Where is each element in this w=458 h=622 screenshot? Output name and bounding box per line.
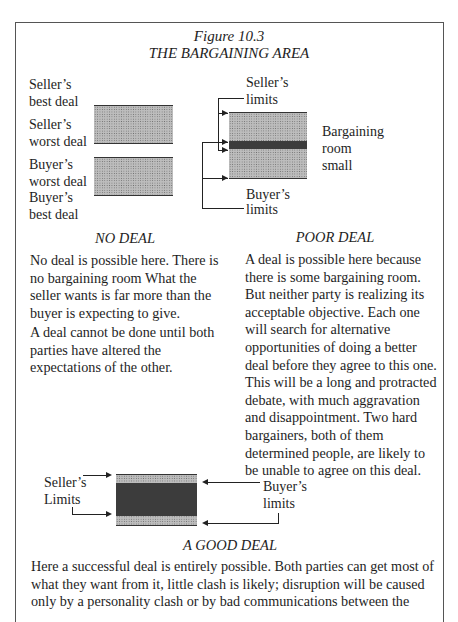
label-seller-worst-1: Seller’s: [29, 116, 72, 133]
arrow-right-icon: [222, 175, 228, 181]
label-buyer-worst-2: worst deal: [29, 173, 87, 190]
seller-range-bar: [94, 105, 173, 144]
buyer-bottom-arrow-line: [206, 523, 279, 524]
figure-number: Figure 10.3: [0, 27, 458, 45]
buyer-bracket-bottom: [202, 208, 244, 209]
buyer-top-arrow-line: [206, 482, 260, 483]
arrow-right-icon: [222, 147, 228, 153]
label-small: small: [322, 157, 352, 174]
seller-bracket-top: [218, 98, 244, 99]
label-good-seller-limits-1: Seller’s: [44, 474, 87, 491]
large-bargaining-room: [116, 483, 197, 516]
label-buyer-worst-1: Buyer’s: [29, 156, 73, 173]
arrow-right-icon: [222, 139, 228, 145]
buyer-bracket-vertical: [202, 142, 203, 208]
label-seller-best-2: best deal: [29, 93, 78, 110]
label-buyer-limits-2: limits: [246, 201, 278, 218]
label-good-buyer-limits-2: limits: [263, 495, 295, 512]
caption-good-deal: A GOOD DEAL: [100, 537, 360, 554]
arrow-right-icon: [106, 511, 112, 517]
good-deal-paragraph: Here a successful deal is entirely possi…: [31, 558, 436, 611]
buyer-bottom-connector: [278, 513, 279, 523]
seller-bottom-connector: [72, 507, 73, 514]
label-seller-limits-1: Seller’s: [246, 74, 289, 91]
caption-poor-deal: POOR DEAL: [240, 229, 430, 246]
no-deal-paragraph-1: No deal is possible here. There is no ba…: [30, 252, 228, 322]
label-good-seller-limits-2: Limits: [44, 491, 81, 508]
label-bargaining: Bargaining: [322, 123, 384, 140]
seller-bottom-arrow-line: [72, 514, 110, 515]
arrow-right-icon: [222, 110, 228, 116]
caption-no-deal: NO DEAL: [30, 230, 220, 247]
label-room: room: [322, 140, 352, 157]
label-good-buyer-limits-1: Buyer’s: [263, 478, 307, 495]
label-buyer-best-2: best deal: [29, 206, 78, 223]
small-bargaining-room: [229, 141, 307, 149]
buyer-range-bar: [94, 157, 173, 196]
label-seller-best-1: Seller’s: [29, 76, 72, 93]
figure-title: THE BARGAINING AREA: [0, 44, 458, 62]
label-buyer-best-1: Buyer’s: [29, 189, 73, 206]
label-seller-limits-2: limits: [246, 91, 278, 108]
no-deal-paragraph-2: A deal cannot be done until both parties…: [30, 324, 228, 377]
arrow-right-icon: [106, 472, 112, 478]
poor-deal-paragraph: A deal is possible here because there is…: [245, 251, 441, 480]
label-seller-worst-2: worst deal: [29, 133, 87, 150]
